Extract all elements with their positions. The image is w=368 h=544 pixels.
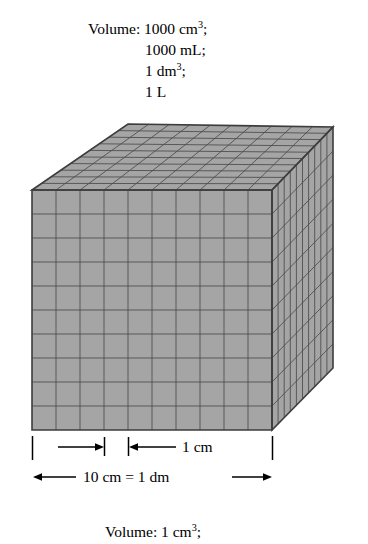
unit-arrow-left-head xyxy=(95,443,104,451)
cube-illustration: 1 cm 10 cm = 1 dm xyxy=(0,0,368,544)
top-grid-widthline-2 xyxy=(51,177,284,178)
unit-dimension-label: 1 cm xyxy=(182,438,213,455)
dimension-unit-row: 1 cm xyxy=(33,436,273,460)
total-dimension-label: 10 cm = 1 dm xyxy=(83,468,169,485)
volume-cube-figure: Volume: 1000 cm3; 1000 mL; 1 dm3; 1 L xyxy=(0,0,368,544)
dimension-total-row: 10 cm = 1 dm xyxy=(33,468,272,485)
bottom-caption-text: Volume: 1 cm xyxy=(105,523,192,540)
bottom-caption-suffix: ; xyxy=(197,523,201,540)
unit-arrow-right-head xyxy=(129,443,138,451)
bottom-caption-block: Volume: 1 cm3; xyxy=(105,521,201,542)
total-arrow-left-head xyxy=(33,473,42,481)
total-arrow-right-head xyxy=(263,473,272,481)
